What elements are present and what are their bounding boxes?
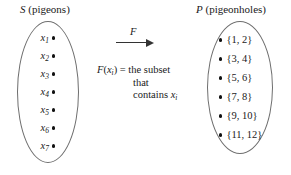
list-item: {3, 4} — [219, 53, 252, 65]
list-item: x4 — [17, 86, 79, 98]
list-item: x2 — [17, 50, 79, 62]
right-set-description: (pigeonholes) — [205, 3, 265, 15]
right-set-caption: P (pigeonholes) — [196, 3, 266, 16]
definition-argument: xi — [107, 64, 114, 75]
arrow-head-icon — [146, 39, 154, 47]
function-definition: F(xi) = the subset that contains xi — [97, 64, 177, 102]
definition-line-2: that — [97, 77, 177, 89]
mapping-arrow: F — [116, 26, 156, 48]
list-item: {5, 6} — [219, 72, 252, 84]
element-dot-icon — [52, 126, 55, 129]
element-dot-icon — [52, 144, 55, 147]
arrow-shaft — [116, 42, 149, 43]
arrow-label: F — [130, 26, 136, 37]
element-dot-icon — [219, 76, 222, 79]
list-item: {7, 8} — [219, 91, 252, 103]
definition-argument: xi — [171, 89, 178, 100]
element-label: x2 — [41, 50, 49, 63]
element-dot-icon — [219, 38, 222, 41]
definition-line-1: F(xi) = the subset — [97, 64, 177, 77]
element-label: {9, 10} — [226, 110, 257, 122]
element-dot-icon — [219, 57, 222, 60]
element-dot-icon — [219, 95, 222, 98]
list-item: x5 — [17, 104, 79, 116]
element-dot-icon — [52, 90, 55, 93]
right-set-symbol: P — [196, 3, 203, 15]
list-item: x3 — [17, 68, 79, 80]
left-set-element-list: x1 x2 x3 x4 x5 x6 x7 — [17, 21, 79, 163]
element-label: {1, 2} — [226, 34, 252, 46]
element-dot-icon — [52, 54, 55, 57]
element-dot-icon — [219, 114, 222, 117]
element-label: x7 — [41, 140, 49, 153]
element-label: {3, 4} — [226, 53, 252, 65]
left-set-description: (pigeons) — [28, 3, 70, 15]
left-set-symbol: S — [20, 3, 26, 15]
element-dot-icon — [52, 36, 55, 39]
element-label: x5 — [41, 104, 49, 117]
list-item: x1 — [17, 32, 79, 44]
list-item: {11, 12} — [219, 129, 262, 141]
element-label: {11, 12} — [226, 129, 262, 141]
element-dot-icon — [52, 72, 55, 75]
list-item: x7 — [17, 140, 79, 152]
list-item: {9, 10} — [219, 110, 257, 122]
element-label: x3 — [41, 68, 49, 81]
element-label: x1 — [41, 32, 49, 45]
element-label: x6 — [41, 122, 49, 135]
pigeonhole-diagram: S (pigeons) P (pigeonholes) x1 x2 x3 x4 … — [0, 0, 291, 175]
element-label: {7, 8} — [226, 91, 252, 103]
definition-line-3: contains xi — [97, 89, 177, 102]
element-dot-icon — [219, 133, 222, 136]
left-set-caption: S (pigeons) — [20, 3, 70, 16]
element-dot-icon — [52, 108, 55, 111]
element-label: x4 — [41, 86, 49, 99]
list-item: x6 — [17, 122, 79, 134]
element-label: {5, 6} — [226, 72, 252, 84]
right-set-element-list: {1, 2} {3, 4} {5, 6} {7, 8} {9, 10} {11,… — [207, 21, 273, 154]
list-item: {1, 2} — [219, 34, 252, 46]
